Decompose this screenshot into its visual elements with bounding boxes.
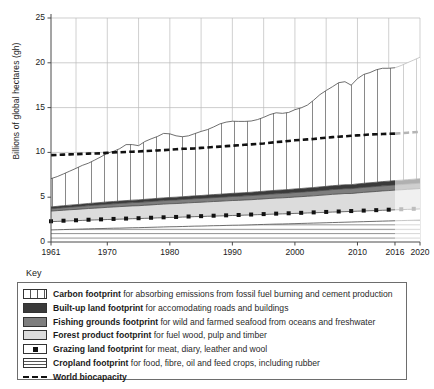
y-tick-label: 10 — [19, 146, 45, 156]
y-tick-label: 5 — [19, 191, 45, 201]
x-tick-label: 1990 — [216, 247, 248, 257]
legend-item-name: Fishing grounds footprint — [53, 317, 158, 327]
legend-item-text: Forest product footprint for fuel wood, … — [53, 330, 267, 340]
x-tick-label: 2000 — [279, 247, 311, 257]
legend-item[interactable]: Carbon footprint for absorbing emissions… — [23, 287, 401, 301]
cropland-swatch-icon — [23, 358, 47, 368]
legend-item[interactable]: Forest product footprint for fuel wood, … — [23, 329, 401, 343]
carbon-swatch-icon — [23, 289, 47, 299]
legend-item-description: for fuel wood, pulp and timber — [151, 330, 267, 340]
legend-item-description: for meat, diary, leather and wool — [143, 344, 268, 354]
x-tick-label: 2010 — [341, 247, 373, 257]
x-tick-label: 2020 — [404, 247, 434, 257]
stacked-areas — [51, 57, 420, 242]
grazing-swatch-icon — [23, 344, 47, 354]
fishing-swatch-icon — [23, 317, 47, 327]
legend-item-name: Carbon footprint — [53, 289, 121, 299]
y-tick-label: 15 — [19, 102, 45, 112]
legend-item-description: for accomodating roads and buildings — [143, 303, 288, 313]
x-tick-label: 1970 — [91, 247, 123, 257]
legend-item-name: Cropland footprint — [53, 358, 128, 368]
legend-item-description: for wild and farmed seafood from oceans … — [158, 317, 375, 327]
x-tick-label: 1980 — [154, 247, 186, 257]
legend-item-text: Fishing grounds footprint for wild and f… — [53, 317, 375, 327]
legend-item-name: Forest product footprint — [53, 330, 151, 340]
legend-item-name: Grazing land footprint — [53, 344, 143, 354]
legend-item[interactable]: Built-up land footprint for accomodating… — [23, 301, 401, 315]
legend-item-text: World biocapacity — [53, 372, 127, 382]
footprint-area-chart — [0, 0, 426, 265]
legend-box: Carbon footprint for absorbing emissions… — [17, 282, 407, 380]
x-tick-label: 1961 — [35, 247, 67, 257]
legend-item-name: World biocapacity — [53, 372, 127, 382]
builtup-swatch-icon — [23, 303, 47, 313]
legend-item[interactable]: Cropland footprint for food, fibre, oil … — [23, 356, 401, 370]
legend-item-text: Built-up land footprint for accomodating… — [53, 303, 288, 313]
biocapacity-swatch-icon — [23, 372, 47, 382]
legend-item-name: Built-up land footprint — [53, 303, 143, 313]
legend-item[interactable]: Fishing grounds footprint for wild and f… — [23, 315, 401, 329]
legend-item-text: Cropland footprint for food, fibre, oil … — [53, 358, 320, 368]
legend-item[interactable]: Grazing land footprint for meat, diary, … — [23, 343, 401, 357]
y-tick-label: 0 — [19, 236, 45, 246]
legend-item-description: for food, fibre, oil and feed crops, inc… — [128, 358, 320, 368]
legend-container: Key Carbon footprint for absorbing emiss… — [0, 265, 426, 389]
legend-title: Key — [26, 268, 42, 278]
legend-item-text: Grazing land footprint for meat, diary, … — [53, 344, 267, 354]
chart-container: Billions of global hectares (gh) — [0, 0, 426, 265]
legend-item-description: for absorbing emissions from fossil fuel… — [121, 289, 393, 299]
legend-item-text: Carbon footprint for absorbing emissions… — [53, 289, 393, 299]
forest-swatch-icon — [23, 330, 47, 340]
y-tick-label: 20 — [19, 57, 45, 67]
legend-item[interactable]: World biocapacity — [23, 370, 401, 384]
y-tick-label: 25 — [19, 12, 45, 22]
